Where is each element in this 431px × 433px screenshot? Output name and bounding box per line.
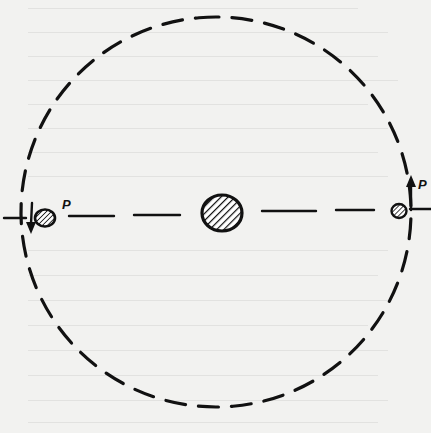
planet-left — [35, 210, 55, 227]
planet-left-label: P — [62, 197, 71, 212]
central-body — [202, 195, 242, 231]
planet-right-label: P — [418, 177, 427, 192]
orbit-diagram — [0, 0, 431, 433]
planet-right — [392, 204, 407, 218]
arrow-up-icon — [406, 175, 416, 210]
